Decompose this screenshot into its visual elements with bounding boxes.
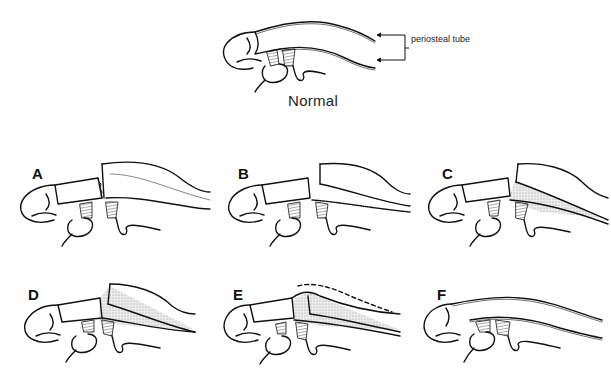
- finger-drawing-c: [420, 150, 611, 260]
- periosteal-tube-pointer: [215, 8, 385, 88]
- panel-d: [10, 270, 210, 379]
- panel-normal: [215, 8, 385, 88]
- panel-b: [220, 150, 420, 260]
- panel-f: [420, 270, 611, 379]
- panel-e: [220, 270, 420, 379]
- finger-drawing-e: [220, 270, 420, 379]
- panel-c: [420, 150, 611, 260]
- finger-drawing-d: [10, 270, 210, 379]
- finger-drawing-b: [220, 150, 420, 260]
- finger-drawing-f: [420, 270, 611, 379]
- periosteal-tube-label: periosteal tube: [411, 34, 470, 44]
- normal-caption: Normal: [288, 92, 338, 109]
- panel-a: [10, 150, 210, 260]
- finger-drawing-a: [10, 150, 210, 260]
